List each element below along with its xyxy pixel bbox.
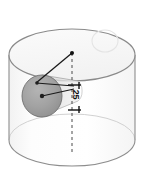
disk-center-point — [40, 94, 44, 98]
dimension-label-25: 25 — [71, 90, 80, 100]
cylinder-top-center-point — [70, 51, 74, 55]
hole-rim-point — [35, 81, 39, 85]
figure-container: 25 — [0, 0, 145, 181]
